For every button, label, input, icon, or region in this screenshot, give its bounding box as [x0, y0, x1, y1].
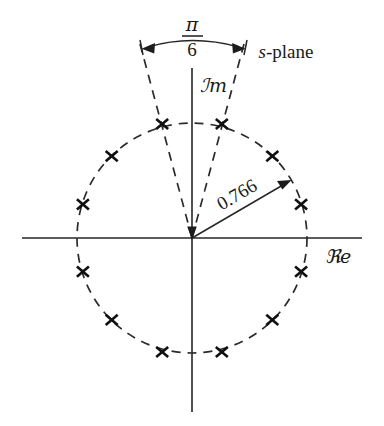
angle-denominator-label: 6	[187, 39, 197, 60]
pole-marker	[77, 199, 89, 209]
radius-arrowhead	[277, 180, 292, 190]
pole-marker	[106, 315, 118, 325]
radius-value-label: 0.766	[213, 175, 261, 215]
angle-arrow-left	[142, 43, 156, 53]
angle-numerator-label: π	[185, 13, 199, 35]
pole-zero-plot: π 6 s-plane ℐm ℜe 0.766	[0, 0, 384, 426]
pole-marker	[295, 199, 307, 209]
plane-label: s-plane	[259, 41, 314, 62]
pole-marker	[266, 151, 278, 161]
pole-marker	[266, 315, 278, 325]
plane-label-symbol: s	[259, 41, 266, 62]
s-plane-figure: π 6 s-plane ℐm ℜe 0.766	[0, 0, 384, 426]
radial-line-105deg	[140, 44, 192, 238]
angle-value-fraction: π 6	[182, 13, 203, 60]
plane-label-suffix: -plane	[266, 41, 313, 62]
angle-tick-right	[244, 40, 247, 55]
pole-marker	[106, 151, 118, 161]
real-axis-label: ℜe	[325, 245, 351, 267]
imaginary-axis-label: ℐm	[200, 74, 227, 96]
